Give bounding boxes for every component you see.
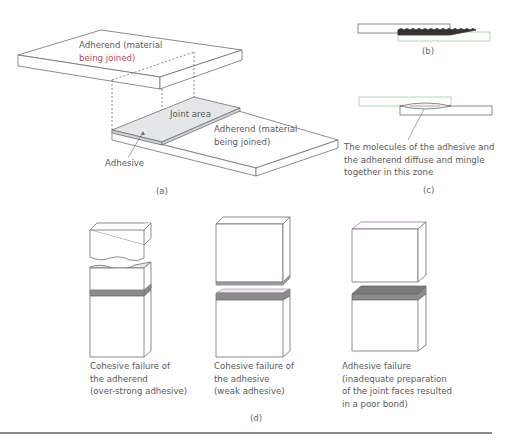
adhesive-label: Adhesive [105, 157, 144, 170]
diffusion-note-line1: The molecules of the adhesive and [344, 141, 495, 154]
failure-1-line3: (over-strong adhesive) [90, 385, 187, 398]
failure-label-cohesive-adhesive: Cohesive failure of the adhesive (weak a… [214, 360, 294, 398]
top-adherend-line2: being joined) [79, 52, 162, 65]
failure-2-line2: the adhesive [214, 373, 294, 386]
panel-b-drawing [358, 24, 490, 41]
joint-area-label: Joint area [170, 108, 211, 121]
panel-c-drawing [359, 97, 492, 140]
diffusion-note: The molecules of the adhesive and the ad… [344, 141, 495, 179]
block-adhesive-failure [352, 222, 426, 351]
failure-2-line1: Cohesive failure of [214, 360, 294, 373]
failure-2-line3: (weak adhesive) [214, 385, 294, 398]
bottom-rule [0, 432, 492, 434]
bottom-adherend-label: Adherend (material being joined) [214, 123, 297, 148]
bottom-adherend-line2: being joined) [214, 136, 297, 149]
failure-3-line4: in a poor bond) [342, 398, 452, 411]
caption-d: (d) [250, 413, 262, 423]
diffusion-note-line3: together in this zone [344, 166, 495, 179]
caption-c: (c) [423, 185, 434, 195]
top-adherend-line1: Adherend (material [79, 39, 162, 52]
bottom-adherend-line1: Adherend (material [214, 123, 297, 136]
failure-3-line2: (inadequate preparation [342, 373, 452, 386]
failure-label-cohesive-adherend: Cohesive failure of the adherend (over-s… [90, 360, 187, 398]
failure-3-line1: Adhesive failure [342, 360, 452, 373]
caption-a: (a) [156, 186, 168, 196]
diffusion-note-line2: the adherend diffuse and mingle [344, 154, 495, 167]
block-cohesive-adherend [90, 223, 151, 357]
failure-1-line1: Cohesive failure of [90, 360, 187, 373]
failure-label-adhesive: Adhesive failure (inadequate preparation… [342, 360, 452, 410]
failure-3-line3: of the joint faces resulted [342, 385, 452, 398]
failure-1-line2: the adherend [90, 373, 187, 386]
caption-b: (b) [422, 46, 434, 56]
block-cohesive-adhesive [216, 217, 290, 357]
top-adherend-label: Adherend (material being joined) [79, 39, 162, 64]
